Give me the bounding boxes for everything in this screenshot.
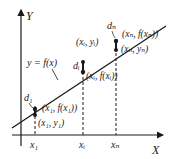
data-label-n: (xₙ, yₙ)	[121, 44, 148, 55]
point-group-n: dₙ (xₙ, f(xₙ)) (xₙ, yₙ)	[107, 20, 158, 55]
data-label-i: (xᵢ, yᵢ)	[76, 37, 99, 48]
least-squares-diagram: Y X x₁ xᵢ xₙ y = f(x) d₁ (x₁, f(x₁)) (x₁…	[0, 0, 184, 159]
tick-x1: x₁	[29, 139, 38, 150]
tick-xi: xᵢ	[78, 139, 85, 150]
curve-label: y = f(x)	[26, 57, 58, 69]
point-group-1: d₁ (x₁, f(x₁)) (x₁, y₁)	[24, 92, 77, 129]
on-line-label-n: (xₙ, f(xₙ))	[122, 29, 158, 40]
deviation-label-di: dᵢ	[73, 60, 80, 71]
tick-xn: xₙ	[110, 139, 120, 150]
on-line-label-1: (x₁, f(x₁))	[42, 103, 77, 114]
y-axis-label: Y	[26, 9, 34, 23]
data-point-i	[81, 60, 85, 64]
data-point-n	[114, 48, 118, 52]
on-line-point-n	[114, 39, 118, 43]
deviation-label-d1: d₁	[24, 92, 32, 103]
x-axis-label: X	[151, 143, 160, 157]
deviation-label-dn: dₙ	[107, 20, 116, 31]
on-line-point-1	[33, 107, 37, 111]
curve-label-leader	[52, 69, 58, 80]
point-group-i: dᵢ (xᵢ, yᵢ) (xᵢ, f(xᵢ))	[73, 37, 117, 82]
data-point-1	[33, 113, 37, 117]
on-line-label-i: (xᵢ, f(xᵢ))	[86, 71, 117, 82]
data-label-1: (x₁, y₁)	[38, 118, 64, 129]
on-line-point-i	[81, 70, 85, 74]
